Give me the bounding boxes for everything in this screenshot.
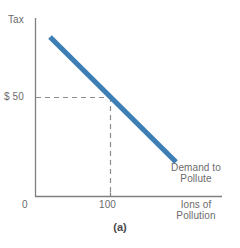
x-axis-tick-label-100: 100 bbox=[99, 199, 116, 210]
x-axis-title: Ions of Pollution bbox=[168, 199, 224, 221]
y-axis-title: Tax bbox=[8, 14, 24, 25]
demand-to-pollute-line bbox=[50, 37, 176, 162]
panel-caption: (a) bbox=[100, 222, 140, 233]
y-axis-tick-label-50: $ 50 bbox=[4, 91, 24, 102]
origin-label: 0 bbox=[22, 199, 28, 210]
demand-curve-label: Demand to Pollute bbox=[168, 162, 224, 184]
figure-panel-a: Tax $ 50 0 100 Ions of Pollution Demand … bbox=[0, 0, 240, 248]
